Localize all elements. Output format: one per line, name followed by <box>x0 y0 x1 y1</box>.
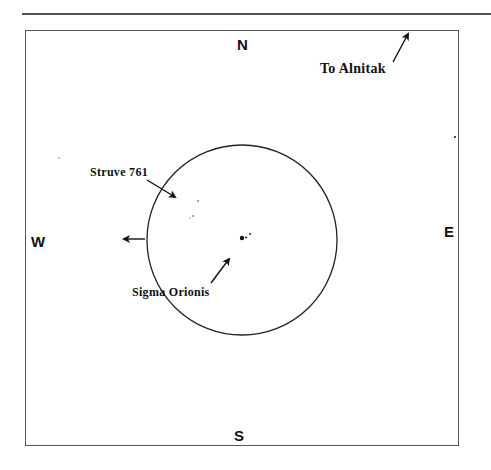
alnitak-arrow-icon <box>393 34 408 62</box>
compass-south: S <box>234 428 244 443</box>
star-sigma-orionis-primary <box>240 236 244 240</box>
star-field <box>58 157 59 158</box>
label-sigma-orionis: Sigma Orionis <box>132 286 210 298</box>
struve-arrow-icon <box>147 180 175 197</box>
finder-chart <box>0 0 491 470</box>
label-to-alnitak: To Alnitak <box>320 62 386 76</box>
compass-west: W <box>31 234 45 249</box>
star-sigma-companion <box>249 233 251 235</box>
star-struve-761 <box>192 215 193 216</box>
stars <box>58 136 456 240</box>
star-field <box>454 136 456 138</box>
compass-east: E <box>444 224 454 239</box>
label-struve-761: Struve 761 <box>90 166 148 178</box>
star-sigma-companion <box>245 237 247 239</box>
compass-north: N <box>237 37 248 52</box>
sigma-arrow-icon <box>211 259 229 283</box>
star-struve-761 <box>190 218 191 219</box>
star-struve-761 <box>197 200 198 201</box>
